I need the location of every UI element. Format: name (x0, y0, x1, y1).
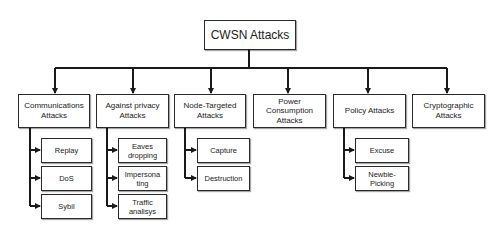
leaf-traffic-analysis: Traffic analisys (118, 194, 167, 219)
leaf-label: DoS (59, 174, 74, 183)
leaf-label: Traffic analisys (129, 198, 156, 216)
leaf-capture: Capture (197, 138, 250, 163)
leaf-eavesdropping: Eaves dropping (118, 138, 167, 163)
category-label: Power Consumption Attacks (266, 97, 313, 126)
category-node-targeted-attacks: Node-Targeted Attacks (174, 94, 246, 128)
category-label: Cryptographic Attacks (424, 101, 474, 120)
leaf-label: Capture (210, 146, 237, 155)
leaf-impersonating: Impersona ting (118, 166, 167, 191)
leaf-sybil: Sybil (41, 194, 92, 219)
category-communications-attacks: Communications Attacks (18, 94, 90, 128)
category-policy-attacks: Policy Attacks (333, 94, 406, 128)
category-cryptographic-attacks: Cryptographic Attacks (412, 94, 485, 128)
leaf-dos: DoS (41, 166, 92, 191)
category-against-privacy-attacks: Against privacy Attacks (96, 94, 169, 128)
category-label: Against privacy Attacks (105, 101, 159, 120)
root-node-cwsn-attacks: CWSN Attacks (204, 20, 296, 50)
leaf-label: Impersona ting (125, 170, 160, 188)
leaf-label: Newbie- Picking (368, 170, 396, 188)
leaf-newbie-picking: Newbie- Picking (355, 166, 409, 191)
category-label: Node-Targeted Attacks (184, 101, 237, 120)
leaf-label: Replay (55, 146, 78, 155)
leaf-excuse: Excuse (355, 138, 409, 163)
leaf-label: Excuse (370, 146, 395, 155)
category-power-consumption-attacks: Power Consumption Attacks (253, 94, 326, 128)
category-label: Communications Attacks (24, 101, 84, 120)
leaf-label: Eaves dropping (128, 142, 157, 160)
category-label: Policy Attacks (345, 106, 394, 116)
leaf-destruction: Destruction (197, 166, 250, 191)
leaf-label: Sybil (58, 202, 74, 211)
leaf-label: Destruction (205, 174, 243, 183)
root-label: CWSN Attacks (211, 28, 290, 42)
leaf-replay: Replay (41, 138, 92, 163)
